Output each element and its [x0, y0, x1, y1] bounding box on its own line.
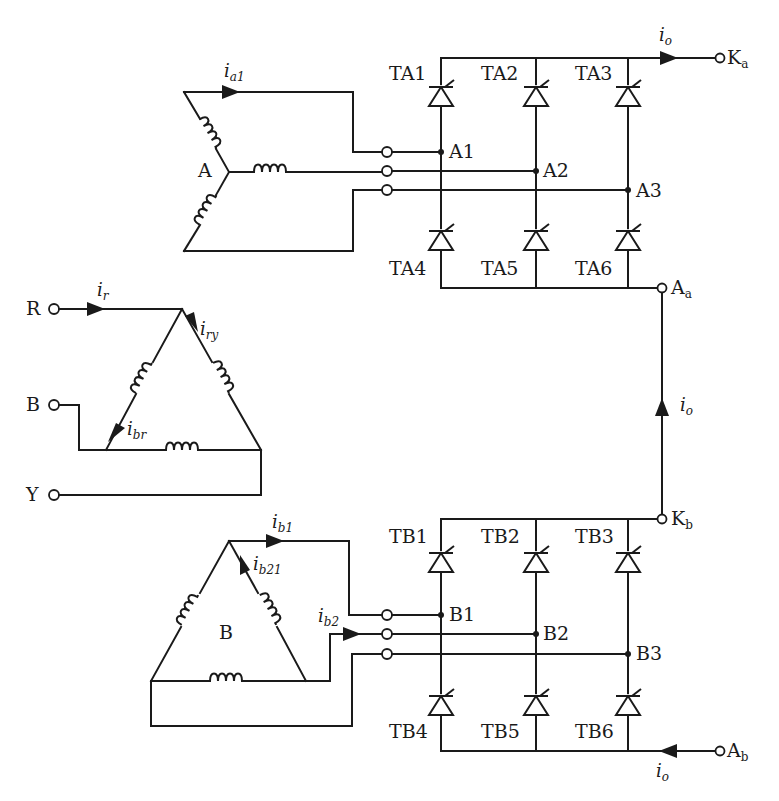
label-a1: A1	[449, 142, 475, 161]
label-ta4: TA4	[389, 259, 426, 278]
arrow-ib2	[343, 627, 361, 641]
terminal-b	[49, 400, 59, 410]
label-tb5: TB5	[481, 722, 520, 741]
label-io-bottom: io	[656, 762, 669, 783]
label-terminal-r: R	[26, 299, 40, 318]
label-io-top: io	[659, 26, 672, 47]
label-ta5: TA5	[481, 259, 518, 278]
arrow-io-top	[660, 51, 678, 65]
label-ib1: ib1	[272, 513, 293, 534]
label-ta6: TA6	[575, 259, 612, 278]
label-tb2: TB2	[481, 527, 520, 546]
series-link	[655, 293, 669, 514]
label-tb4: TB4	[389, 722, 428, 741]
schematic-drawing	[0, 0, 779, 801]
terminal-y	[49, 490, 59, 500]
terminal-ka	[716, 54, 725, 63]
label-aa: Aa	[671, 278, 692, 300]
arrow-ir	[87, 302, 105, 316]
arrow-ib1	[266, 534, 284, 548]
label-b1: B1	[449, 605, 475, 624]
label-ir: ir	[97, 281, 109, 302]
terminal-aa	[658, 284, 667, 293]
label-io-mid: io	[680, 396, 693, 417]
arrow-ib21	[240, 555, 250, 575]
arrow-iry	[185, 312, 198, 332]
label-secondary-b: B	[219, 623, 233, 642]
label-tb3: TB3	[575, 527, 614, 546]
label-kb: Kb	[671, 509, 693, 531]
label-ab: Ab	[727, 741, 748, 763]
label-a3: A3	[636, 181, 662, 200]
arrow-io-mid	[655, 398, 669, 416]
label-ta3: TA3	[575, 64, 612, 83]
label-a2: A2	[543, 161, 569, 180]
arrow-ia1	[222, 85, 240, 99]
label-iry: iry	[200, 320, 218, 341]
secondary-a-star	[184, 85, 392, 251]
label-secondary-a: A	[198, 161, 212, 180]
label-ia1: ia1	[224, 62, 245, 83]
label-terminal-y: Y	[26, 485, 39, 504]
label-b2: B2	[543, 624, 569, 643]
terminal-ab	[716, 747, 725, 756]
label-ib21: ib21	[253, 555, 282, 576]
label-ibr: ibr	[127, 420, 146, 441]
label-terminal-b: B	[26, 395, 40, 414]
primary-delta	[49, 302, 261, 500]
label-ib2: ib2	[318, 607, 339, 628]
label-tb1: TB1	[389, 527, 428, 546]
label-ta1: TA1	[389, 64, 426, 83]
label-ka: Ka	[727, 48, 748, 70]
terminal-kb	[658, 515, 667, 524]
terminal-r	[49, 304, 59, 314]
label-tb6: TB6	[575, 722, 614, 741]
arrow-ibr	[108, 423, 125, 442]
label-b3: B3	[636, 644, 662, 663]
circuit-diagram: TA1 TA2 TA3 TA4 TA5 TA6 A1 A2 A3 Ka Aa i…	[0, 0, 779, 801]
arrow-io-bottom	[659, 744, 677, 758]
label-ta2: TA2	[481, 64, 518, 83]
